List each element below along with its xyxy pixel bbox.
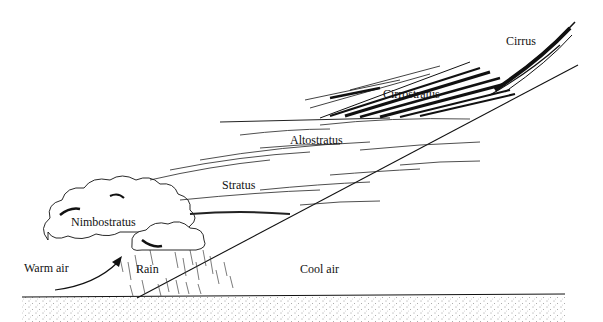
nimbostratus-cloud [43, 176, 205, 250]
label-nimbostratus: Nimbostratus [71, 216, 136, 228]
label-warm-air: Warm air [24, 262, 69, 274]
label-rain: Rain [136, 263, 159, 275]
label-cirrus: Cirrus [506, 35, 536, 47]
label-cool-air: Cool air [300, 263, 339, 275]
label-altostratus: Altostratus [290, 134, 343, 146]
cirrus-streaks [490, 22, 575, 95]
label-cirrostratus: Cirrostratus [383, 88, 440, 100]
label-stratus: Stratus [222, 179, 255, 191]
frontal-boundary-line [137, 65, 578, 298]
ground [22, 294, 567, 322]
